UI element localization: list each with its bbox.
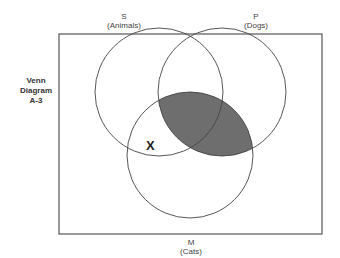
venn-diagram bbox=[0, 0, 340, 258]
x-mark: X bbox=[146, 138, 155, 153]
